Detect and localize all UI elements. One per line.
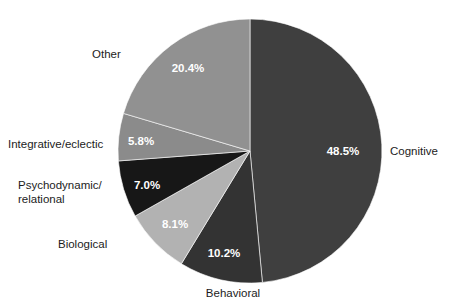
pie-category-label-biological: Biological bbox=[58, 237, 128, 251]
pie-slice-cognitive[interactable] bbox=[250, 19, 382, 282]
pie-value-label-psychodynamic-relational: 7.0% bbox=[134, 179, 160, 191]
pie-category-label-psychodynamic-relational: Psychodynamic/ relational bbox=[18, 178, 126, 206]
pie-category-label-other: Other bbox=[92, 47, 140, 61]
pie-category-label-integrative-eclectic: Integrative/eclectic bbox=[8, 137, 124, 151]
pie-category-label-behavioral: Behavioral bbox=[193, 286, 273, 300]
pie-category-label-cognitive: Cognitive bbox=[390, 144, 465, 158]
pie-value-label-integrative-eclectic: 5.8% bbox=[128, 135, 154, 147]
pie-value-label-cognitive: 48.5% bbox=[327, 145, 360, 157]
pie-chart-figure: 48.5%10.2%8.1%7.0%5.8%20.4% CognitiveBeh… bbox=[0, 0, 465, 308]
pie-value-label-other: 20.4% bbox=[172, 62, 205, 74]
pie-value-label-biological: 8.1% bbox=[162, 218, 188, 230]
pie-value-label-behavioral: 10.2% bbox=[208, 247, 241, 259]
